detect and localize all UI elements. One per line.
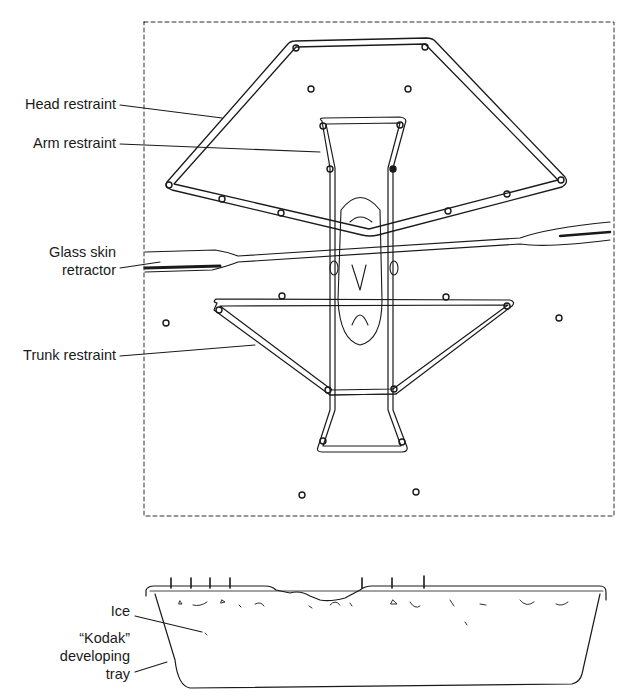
- ice-fragments: [179, 600, 568, 635]
- developing-tray: [146, 586, 606, 688]
- head-restraint: [166, 38, 566, 236]
- diagram-canvas: [0, 0, 620, 698]
- glass-skin-retractor: [145, 222, 610, 272]
- trunk-restraint: [214, 299, 514, 395]
